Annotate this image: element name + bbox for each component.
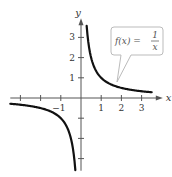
x-tick-label: 3 (139, 103, 145, 113)
x-tick-label: −1 (52, 103, 65, 113)
function-graph: xy−1123123 f(x) =1x (0, 0, 172, 177)
y-tick-label: 2 (69, 53, 75, 63)
callout-numerator: 1 (152, 30, 158, 40)
x-tick-label: 1 (98, 103, 104, 113)
function-callout: f(x) =1x (111, 27, 163, 82)
y-tick-label: 1 (69, 73, 75, 83)
x-tick-label: 2 (119, 103, 125, 113)
y-axis-arrow-icon (79, 18, 84, 25)
x-axis-label: x (166, 92, 172, 103)
x-axis-arrow-icon (156, 96, 163, 101)
y-axis-label: y (74, 7, 81, 18)
callout-lhs: f(x) = (114, 36, 141, 46)
callout-denominator: x (152, 42, 157, 52)
curve-negative-branch (10, 104, 75, 170)
y-tick-label: 3 (69, 32, 75, 42)
